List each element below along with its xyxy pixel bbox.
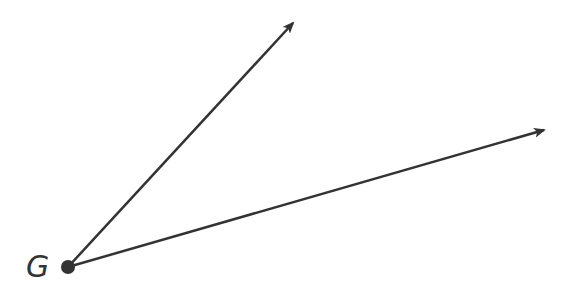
angle-diagram bbox=[0, 0, 576, 304]
vertex-point bbox=[61, 260, 75, 274]
upper-ray bbox=[68, 23, 293, 267]
vertex-label: G bbox=[26, 252, 49, 282]
lower-ray bbox=[68, 130, 544, 267]
